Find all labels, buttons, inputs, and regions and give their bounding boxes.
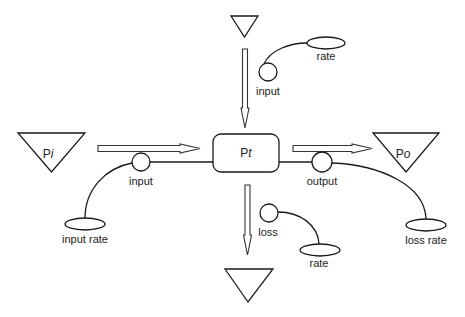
bottom-rate-converter bbox=[300, 244, 340, 256]
top-input-label: input bbox=[256, 85, 280, 97]
loss-rate-link bbox=[332, 163, 426, 219]
bottom-sink-triangle bbox=[225, 269, 273, 302]
outflow-arrow bbox=[293, 144, 372, 153]
loss-outflow-arrow bbox=[244, 185, 252, 255]
bottom-rate-label: rate bbox=[310, 257, 329, 269]
left-input-label: input bbox=[129, 175, 153, 187]
top-input-valve bbox=[259, 63, 277, 81]
loss-rate-converter bbox=[406, 219, 446, 231]
top-source-triangle bbox=[231, 16, 258, 37]
left-input-valve bbox=[132, 153, 150, 171]
top-inflow-arrow bbox=[241, 49, 249, 128]
input-rate-converter bbox=[65, 218, 105, 230]
loss-valve bbox=[260, 204, 278, 222]
stock-flow-diagram: input rate Pi input input rate Pt output… bbox=[0, 0, 465, 317]
top-rate-link bbox=[264, 43, 307, 64]
pi-label: Pi bbox=[43, 147, 54, 161]
output-valve bbox=[312, 152, 332, 172]
input-rate-label: input rate bbox=[62, 233, 108, 245]
top-rate-label: rate bbox=[317, 50, 336, 62]
loss-label: loss bbox=[258, 226, 278, 238]
loss-rate-label: loss rate bbox=[405, 234, 447, 246]
pt-label: Pt bbox=[240, 146, 252, 160]
input-rate-link bbox=[85, 163, 132, 218]
left-inflow-arrow bbox=[98, 144, 200, 153]
po-label: Po bbox=[396, 147, 411, 161]
top-rate-converter bbox=[307, 37, 345, 49]
bottom-rate-link bbox=[278, 212, 319, 244]
output-label: output bbox=[307, 175, 338, 187]
